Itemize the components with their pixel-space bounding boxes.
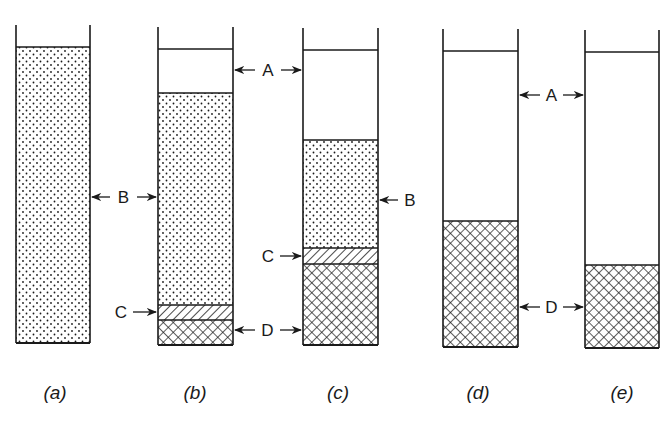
annotation-a-de: A: [520, 86, 583, 105]
annotation-c-b: C: [115, 303, 156, 322]
zone-c-transition: [158, 305, 233, 320]
column-a: [16, 25, 90, 343]
column-d: [443, 29, 518, 347]
svg-text:C: C: [115, 303, 127, 322]
caption-a: (a): [43, 382, 66, 403]
zone-b-suspension: [16, 47, 90, 343]
zone-b-suspension: [303, 140, 378, 248]
zone-d-sediment: [443, 221, 518, 347]
svg-text:D: D: [545, 298, 557, 317]
column-e: [585, 30, 659, 348]
svg-text:A: A: [546, 86, 558, 105]
zone-b-suspension: [158, 93, 233, 305]
caption-d: (d): [466, 382, 489, 403]
annotation-c-c: C: [262, 247, 301, 266]
svg-text:A: A: [262, 61, 274, 80]
settling-diagram: B A C D B C A D (a) (b) (c) (d) (e): [0, 0, 671, 423]
column-c: [303, 28, 378, 345]
svg-text:C: C: [262, 247, 274, 266]
annotation-b-c: B: [380, 191, 416, 210]
caption-c: (c): [327, 382, 349, 403]
zone-c-transition: [303, 248, 378, 264]
svg-text:D: D: [261, 321, 273, 340]
caption-b: (b): [183, 382, 206, 403]
annotation-d-de: D: [520, 298, 583, 317]
zone-d-sediment: [303, 264, 378, 345]
zone-d-sediment: [585, 265, 659, 348]
svg-text:B: B: [404, 191, 415, 210]
annotation-d-bc: D: [235, 321, 301, 340]
column-b: [158, 27, 233, 345]
zone-d-sediment: [158, 320, 233, 345]
caption-e: (e): [610, 382, 633, 403]
svg-text:B: B: [118, 188, 129, 207]
annotation-b-ab: B: [92, 188, 156, 207]
annotation-a-bc: A: [235, 61, 301, 80]
